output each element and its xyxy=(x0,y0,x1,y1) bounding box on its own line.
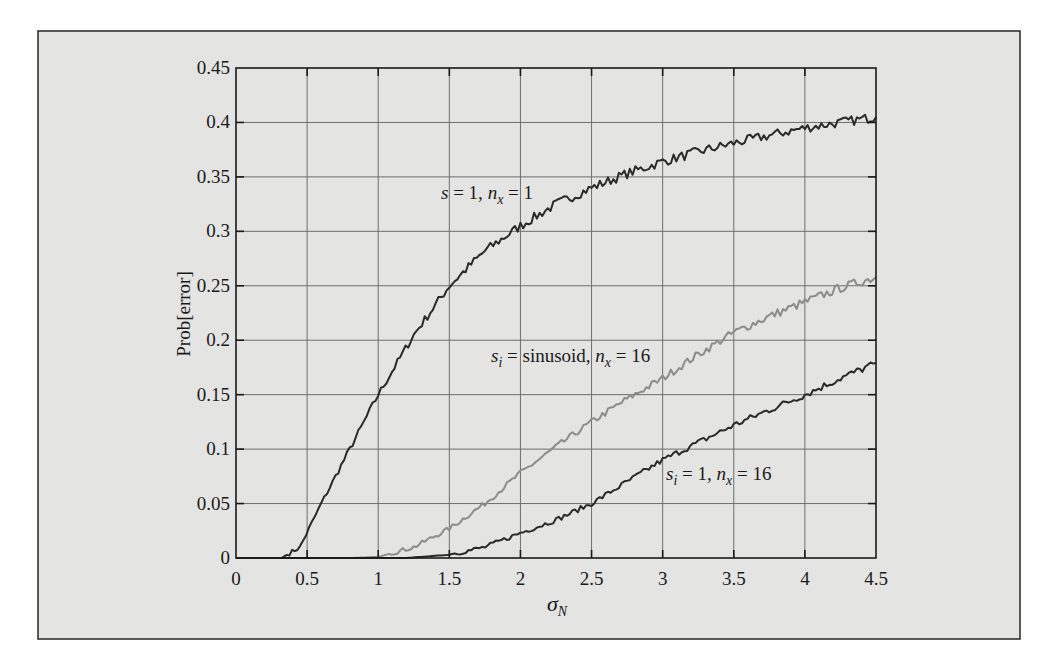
chart-figure: 00.511.522.533.544.5 00.050.10.150.20.25… xyxy=(0,0,1046,668)
x-axis-label-sub: N xyxy=(557,604,568,619)
y-tick-label: 0.35 xyxy=(197,166,230,187)
y-tick-label: 0 xyxy=(221,547,231,568)
x-tick-label: 2 xyxy=(516,568,526,589)
x-tick-label: 1.5 xyxy=(437,568,461,589)
y-tick-label: 0.15 xyxy=(197,384,230,405)
y-tick-label: 0.3 xyxy=(206,220,230,241)
y-tick-label: 0.25 xyxy=(197,275,230,296)
x-tick-label: 4 xyxy=(800,568,810,589)
y-tick-label: 0.45 xyxy=(197,57,230,78)
x-tick-label: 3 xyxy=(658,568,668,589)
x-tick-label: 1 xyxy=(373,568,383,589)
y-axis-label: Prob[error] xyxy=(173,271,194,356)
x-tick-label: 4.5 xyxy=(864,568,888,589)
y-tick-label: 0.1 xyxy=(206,438,230,459)
x-tick-label: 3.5 xyxy=(722,568,746,589)
x-tick-label: 0.5 xyxy=(295,568,319,589)
y-tick-label: 0.2 xyxy=(206,329,230,350)
y-tick-label: 0.05 xyxy=(197,493,230,514)
x-tick-label: 2.5 xyxy=(580,568,604,589)
y-tick-label: 0.4 xyxy=(206,111,230,132)
x-tick-label: 0 xyxy=(231,568,241,589)
